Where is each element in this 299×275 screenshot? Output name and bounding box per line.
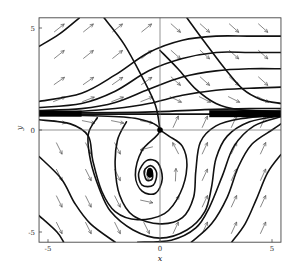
x-tick-label: 5: [270, 245, 274, 253]
direction-arrow: [229, 24, 239, 33]
y-ticks: -505: [28, 25, 42, 237]
direction-arrow: [200, 77, 210, 86]
direction-arrow: [260, 142, 266, 154]
y-tick-label: -5: [28, 229, 35, 237]
direction-arrow: [173, 222, 179, 234]
direction-arrow: [83, 50, 93, 58]
direction-arrow: [115, 196, 121, 208]
direction-arrow: [83, 77, 94, 84]
direction-arrow: [228, 97, 240, 103]
direction-arrow: [260, 195, 266, 207]
y-tick-label: 0: [31, 127, 35, 135]
direction-arrow: [171, 50, 181, 59]
direction-arrow: [141, 24, 151, 32]
direction-arrow: [111, 121, 124, 124]
direction-arrow: [85, 169, 91, 181]
trajectory: [232, 154, 281, 242]
direction-arrow: [56, 143, 62, 155]
direction-arrow: [231, 222, 237, 234]
direction-arrow: [173, 116, 179, 128]
direction-arrow: [200, 24, 210, 33]
x-tick-label: -5: [45, 245, 52, 253]
direction-arrow: [202, 142, 208, 154]
saddle-point: [157, 127, 163, 133]
direction-arrow: [83, 24, 93, 32]
spiral-sink-point: [147, 168, 153, 178]
direction-arrow: [54, 50, 64, 58]
direction-arrow: [140, 200, 153, 204]
y-tick-label: 5: [31, 25, 35, 33]
direction-arrow: [140, 97, 152, 102]
direction-arrow: [85, 196, 91, 208]
x-axis-label: x: [158, 254, 163, 263]
attracting-line-bundle: [39, 111, 82, 117]
direction-arrow: [202, 169, 208, 181]
direction-arrow: [231, 195, 237, 207]
direction-arrow: [174, 168, 177, 181]
direction-arrow: [258, 24, 268, 33]
direction-arrow: [173, 143, 179, 155]
direction-arrow: [258, 77, 268, 86]
direction-arrow: [115, 222, 121, 234]
trajectory: [39, 115, 162, 194]
direction-arrow: [202, 116, 208, 128]
direction-arrow: [112, 77, 123, 84]
direction-arrow: [258, 50, 268, 59]
direction-arrow: [144, 222, 150, 234]
trajectory: [88, 116, 281, 238]
direction-arrow: [231, 116, 237, 128]
phase-portrait-chart: -505 -505 x y: [0, 0, 299, 275]
trajectory: [39, 18, 79, 47]
direction-arrow: [171, 24, 181, 33]
y-axis-label: y: [15, 125, 24, 131]
direction-arrow: [260, 222, 266, 234]
direction-arrow: [112, 50, 122, 58]
attracting-line-bundle: [209, 110, 281, 117]
direction-arrow: [56, 196, 62, 208]
x-tick-label: 0: [158, 245, 162, 253]
direction-arrow: [54, 77, 65, 84]
